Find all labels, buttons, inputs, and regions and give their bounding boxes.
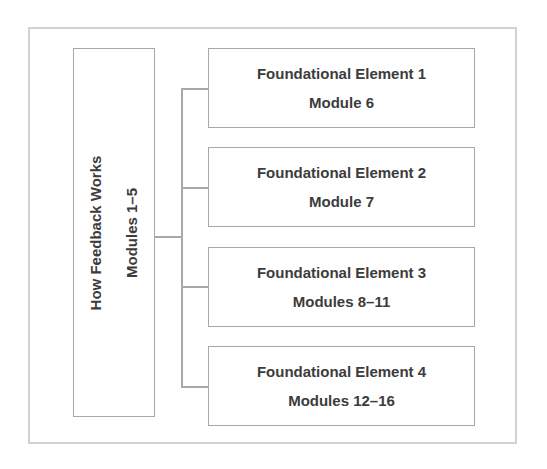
connector-root-to-bracket xyxy=(154,236,182,238)
connector-bracket-vertical xyxy=(181,88,183,387)
root-node-title: How Feedback Works xyxy=(78,155,114,310)
node-title: Foundational Element 2 xyxy=(257,164,426,182)
node-foundational-element-1: Foundational Element 1 Module 6 xyxy=(208,48,475,128)
node-foundational-element-4: Foundational Element 4 Modules 12–16 xyxy=(208,346,475,426)
node-foundational-element-2: Foundational Element 2 Module 7 xyxy=(208,147,475,227)
node-foundational-element-3: Foundational Element 3 Modules 8–11 xyxy=(208,247,475,327)
connector-to-element-1 xyxy=(181,88,209,90)
node-subtitle: Module 6 xyxy=(309,94,374,112)
node-subtitle: Module 7 xyxy=(309,193,374,211)
connector-to-element-2 xyxy=(181,187,209,189)
node-subtitle: Modules 8–11 xyxy=(293,293,391,311)
root-node-how-feedback-works: How Feedback Works Modules 1–5 xyxy=(73,48,155,417)
root-node-subtitle: Modules 1–5 xyxy=(114,155,150,310)
node-title: Foundational Element 4 xyxy=(257,363,426,381)
root-node-label: How Feedback Works Modules 1–5 xyxy=(78,155,150,310)
node-title: Foundational Element 1 xyxy=(257,65,426,83)
connector-to-element-4 xyxy=(181,386,209,388)
connector-to-element-3 xyxy=(181,286,209,288)
node-title: Foundational Element 3 xyxy=(257,264,426,282)
node-subtitle: Modules 12–16 xyxy=(288,392,395,410)
